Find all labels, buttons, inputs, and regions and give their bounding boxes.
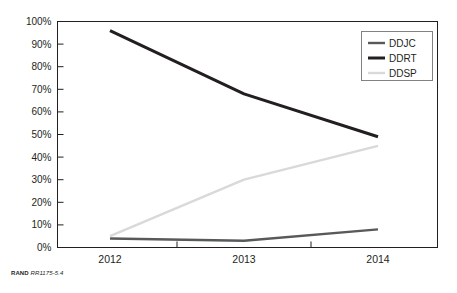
line-chart: 0%10%20%30%40%50%60%70%80%90%100% 201220… — [0, 0, 457, 293]
y-axis-tick-label: 10% — [31, 219, 51, 230]
y-axis-tick-label: 0% — [37, 242, 52, 253]
x-axis-labels: 201220132014 — [98, 253, 390, 265]
y-axis-tick-label: 60% — [31, 106, 51, 117]
credit-id: RR1175-5.4 — [31, 270, 64, 276]
y-axis-labels: 0%10%20%30%40%50%60%70%80%90%100% — [26, 16, 52, 253]
y-axis-tick-label: 20% — [31, 197, 51, 208]
figure-container: 0%10%20%30%40%50%60%70%80%90%100% 201220… — [0, 0, 457, 293]
x-axis-tick-label: 2013 — [232, 253, 256, 265]
x-axis-tick-label: 2012 — [98, 253, 122, 265]
y-axis-tick-label: 70% — [31, 84, 51, 95]
y-axis-tick-label: 90% — [31, 39, 51, 50]
y-axis-tick-label: 30% — [31, 174, 51, 185]
legend-label-ddsp: DDSP — [389, 68, 417, 79]
figure-credit: RAND RR1175-5.4 — [11, 270, 63, 276]
y-axis-tick-label: 50% — [31, 129, 51, 140]
chart-legend: DDJCDDRTDDSP — [362, 32, 433, 81]
y-axis-tick-label: 40% — [31, 152, 51, 163]
y-axis-tick-label: 100% — [26, 16, 52, 27]
y-axis-tick-label: 80% — [31, 61, 51, 72]
credit-brand: RAND — [11, 270, 29, 276]
legend-label-ddrt: DDRT — [389, 53, 417, 64]
legend-label-ddjc: DDJC — [389, 38, 416, 49]
x-axis-tick-label: 2014 — [366, 253, 390, 265]
